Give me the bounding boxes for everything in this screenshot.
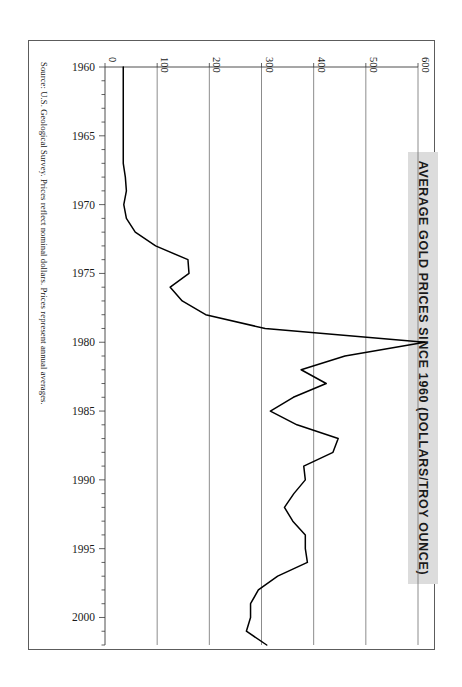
value-tick-label-0: 0 xyxy=(107,57,118,62)
category-tick-label-1970: 1970 xyxy=(72,199,95,211)
value-tick-label-300: 300 xyxy=(264,57,275,73)
series-line-gold-price xyxy=(123,67,425,645)
gold-price-line-chart: 0100200300400500600 19601965197019751980… xyxy=(28,40,435,650)
value-tick-label-200: 200 xyxy=(211,57,222,73)
category-tick-label-2000: 2000 xyxy=(72,611,95,623)
category-tick-label-1960: 1960 xyxy=(72,61,95,73)
axis-ticks xyxy=(99,63,418,645)
value-tick-label-400: 400 xyxy=(316,57,327,73)
category-tick-label-1980: 1980 xyxy=(72,336,95,348)
category-tick-label-1990: 1990 xyxy=(72,474,95,486)
value-tick-label-100: 100 xyxy=(159,57,170,73)
value-tick-label-600: 600 xyxy=(420,57,431,73)
value-tick-label-500: 500 xyxy=(368,57,379,73)
category-tick-label-1995: 1995 xyxy=(72,543,95,555)
category-tick-label-1975: 1975 xyxy=(72,267,95,279)
value-axis-tick-labels: 0100200300400500600 xyxy=(107,57,431,73)
series-layer xyxy=(123,67,425,645)
category-axis-tick-labels: 196019651970197519801985199019952000 xyxy=(72,61,95,623)
category-tick-label-1965: 1965 xyxy=(72,130,95,142)
category-tick-label-1985: 1985 xyxy=(72,405,95,417)
value-axis-gridlines xyxy=(157,67,418,645)
